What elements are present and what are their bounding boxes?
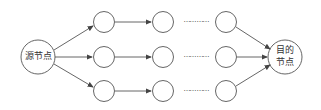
relay-node <box>153 47 174 68</box>
edge-arrow <box>236 65 270 86</box>
edge-arrow <box>236 27 270 49</box>
relay-node <box>153 12 174 33</box>
relay-node <box>216 81 237 102</box>
relay-node <box>216 47 237 68</box>
relay-node <box>94 12 115 33</box>
ellipsis: …… …… <box>179 50 213 61</box>
relay-node <box>94 47 115 68</box>
target-node-label-line1: 目的 <box>268 45 302 56</box>
ellipsis: …… …… <box>179 15 213 26</box>
relay-node <box>94 81 115 102</box>
edge-arrow <box>54 26 93 50</box>
edge-arrow <box>54 64 93 87</box>
relay-node <box>153 81 174 102</box>
source-node-label: 源节点 <box>21 51 55 62</box>
relay-node <box>216 12 237 33</box>
ellipsis: …… …… <box>179 84 213 95</box>
target-node-label-line2: 节点 <box>268 57 302 68</box>
